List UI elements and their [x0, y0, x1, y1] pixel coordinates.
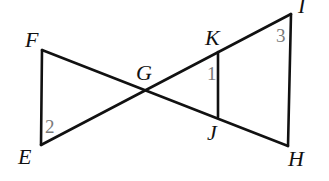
angle-label-2: 2 [45, 116, 55, 137]
point-label-E: E [17, 144, 32, 169]
point-label-I: I [297, 0, 307, 18]
segment-FE [41, 50, 42, 145]
geometry-diagram: F E G K J I H 1 2 3 [0, 0, 329, 181]
point-label-J: J [207, 120, 218, 145]
point-label-H: H [287, 146, 305, 171]
angle-label-1: 1 [207, 63, 217, 84]
segment-FH [42, 50, 288, 146]
angle-label-3: 3 [276, 25, 286, 46]
point-label-G: G [136, 60, 152, 85]
point-label-F: F [24, 27, 39, 52]
segment-EI [41, 14, 291, 145]
segment-IH [288, 14, 291, 146]
point-label-K: K [204, 25, 221, 50]
